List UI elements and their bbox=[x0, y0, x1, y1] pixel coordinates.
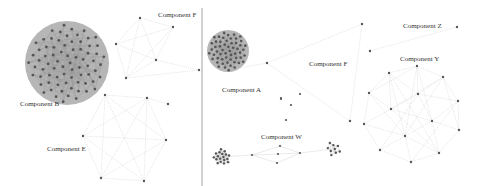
edge bbox=[300, 149, 333, 153]
node bbox=[52, 54, 55, 57]
node bbox=[217, 66, 220, 69]
edge bbox=[147, 98, 168, 104]
node bbox=[75, 97, 78, 100]
node bbox=[82, 135, 84, 137]
node bbox=[234, 52, 237, 55]
node bbox=[214, 46, 217, 49]
edge bbox=[364, 109, 391, 124]
node bbox=[77, 90, 80, 93]
edge bbox=[432, 101, 458, 121]
edges-layer bbox=[83, 18, 459, 181]
node bbox=[229, 64, 232, 67]
node bbox=[218, 35, 221, 38]
label-component-f-left: Component F bbox=[158, 11, 196, 19]
node bbox=[104, 94, 106, 96]
node bbox=[47, 62, 50, 65]
node bbox=[42, 91, 45, 94]
node bbox=[222, 36, 225, 39]
node bbox=[215, 40, 218, 43]
node bbox=[67, 95, 70, 98]
node bbox=[223, 159, 225, 161]
node bbox=[92, 59, 95, 62]
node bbox=[368, 92, 370, 94]
node bbox=[35, 41, 38, 44]
node bbox=[226, 61, 229, 64]
edge bbox=[411, 101, 458, 162]
node bbox=[235, 57, 238, 60]
node bbox=[53, 67, 56, 70]
node bbox=[233, 33, 236, 36]
node bbox=[327, 147, 329, 149]
edge bbox=[126, 18, 140, 78]
node bbox=[77, 81, 80, 84]
node bbox=[210, 42, 213, 45]
edge bbox=[105, 95, 147, 98]
edge bbox=[391, 77, 443, 109]
node bbox=[56, 76, 59, 79]
node bbox=[55, 95, 58, 98]
node bbox=[219, 161, 221, 163]
edge bbox=[417, 66, 418, 94]
node bbox=[115, 43, 117, 45]
node bbox=[224, 66, 227, 69]
edge bbox=[443, 77, 458, 101]
label-component-y: Component Y bbox=[400, 55, 439, 63]
edge bbox=[156, 60, 199, 70]
node bbox=[222, 156, 224, 158]
node bbox=[80, 73, 83, 76]
node bbox=[78, 66, 81, 69]
node bbox=[290, 104, 292, 106]
edge bbox=[140, 18, 156, 60]
node bbox=[70, 87, 73, 90]
node bbox=[39, 75, 42, 78]
node bbox=[44, 55, 47, 58]
edge bbox=[126, 60, 156, 78]
node bbox=[299, 93, 301, 95]
node bbox=[62, 65, 65, 68]
edge bbox=[439, 130, 459, 153]
node bbox=[219, 45, 222, 48]
node bbox=[349, 120, 351, 122]
edge bbox=[364, 93, 369, 124]
node bbox=[50, 37, 53, 40]
edge bbox=[144, 140, 166, 181]
node bbox=[230, 37, 233, 40]
node bbox=[458, 129, 460, 131]
label-component-b: Component B bbox=[20, 100, 59, 108]
node bbox=[165, 139, 167, 141]
node bbox=[456, 26, 458, 28]
node bbox=[216, 162, 218, 164]
node bbox=[251, 154, 253, 156]
edge bbox=[405, 66, 417, 136]
dense-cluster bbox=[25, 21, 109, 105]
node bbox=[334, 148, 336, 150]
edge bbox=[350, 24, 362, 121]
node bbox=[94, 36, 97, 39]
edge bbox=[405, 121, 432, 136]
node bbox=[230, 54, 233, 57]
node bbox=[95, 52, 98, 55]
node bbox=[32, 54, 35, 57]
node bbox=[233, 66, 236, 69]
edge bbox=[280, 146, 300, 153]
node bbox=[96, 44, 99, 47]
edge bbox=[380, 150, 411, 162]
edge bbox=[380, 136, 405, 150]
node bbox=[31, 74, 34, 77]
node bbox=[236, 48, 239, 51]
edge bbox=[417, 66, 443, 77]
node bbox=[233, 61, 236, 64]
node bbox=[227, 34, 230, 37]
node bbox=[335, 151, 337, 153]
edge bbox=[83, 136, 101, 178]
node bbox=[88, 44, 91, 47]
node bbox=[416, 65, 418, 67]
node bbox=[83, 29, 86, 32]
node bbox=[442, 76, 444, 78]
node bbox=[224, 52, 227, 55]
node bbox=[235, 37, 238, 40]
label-component-a: Component A bbox=[222, 86, 261, 94]
edge bbox=[278, 153, 300, 154]
edge bbox=[116, 44, 126, 78]
node bbox=[240, 40, 243, 43]
